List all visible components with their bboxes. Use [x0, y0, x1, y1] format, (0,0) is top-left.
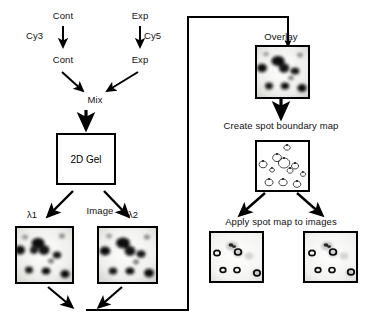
gel-image-applied-right: [303, 231, 358, 283]
label-mix: Mix: [87, 94, 102, 105]
arrow-map-to-applied-right: [297, 193, 322, 215]
label-overlay: Overlay: [264, 31, 297, 42]
gel-image-overlay: [255, 45, 310, 99]
label-lambda2: λ2: [128, 209, 138, 220]
label-2d-gel: 2D Gel: [70, 154, 101, 165]
label-cont-source: Cont: [53, 10, 73, 21]
gel-applied-right-canvas: [305, 233, 356, 281]
arrow-map-to-applied-left: [240, 193, 265, 215]
gel-applied-left-canvas: [211, 233, 262, 281]
label-image-step: Image: [87, 205, 114, 216]
gel-overlay-canvas: [257, 47, 308, 97]
node-2d-gel: 2D Gel: [56, 133, 116, 185]
label-lambda1: λ1: [27, 209, 37, 220]
spot-boundary-map-canvas: [257, 142, 308, 190]
arrow-lambda1-to-merge: [48, 287, 72, 307]
gel-image-lambda1: [15, 226, 74, 284]
arrow-cont-to-mix: [62, 72, 83, 91]
gel-lambda2-canvas: [99, 228, 156, 282]
label-exp-labeled: Exp: [132, 54, 149, 65]
gel-image-applied-left: [209, 231, 264, 283]
arrow-exp-to-mix: [107, 72, 138, 91]
label-cy5: Cy5: [144, 30, 161, 41]
spot-boundary-map-image: [255, 140, 310, 192]
label-cont-labeled: Cont: [53, 54, 73, 65]
arrow-lambda2-to-merge: [99, 287, 122, 307]
gel-lambda1-canvas: [17, 228, 72, 282]
label-create-spot-boundary-map: Create spot boundary map: [224, 120, 339, 131]
label-apply-spot-map: Apply spot map to images: [225, 216, 337, 227]
gel-image-lambda2: [97, 226, 158, 284]
arrow-gel-to-lambda1: [48, 191, 73, 216]
workflow-diagram: Cont Exp Cy3 Cy5 Cont Exp Mix 2D Gel Ima…: [0, 0, 369, 328]
label-exp-source: Exp: [132, 10, 149, 21]
label-cy3: Cy3: [26, 30, 43, 41]
